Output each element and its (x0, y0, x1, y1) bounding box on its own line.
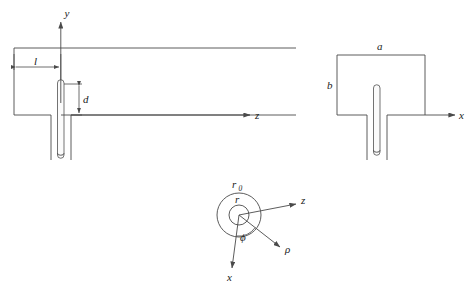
dim-a-label: a (377, 40, 383, 52)
end-probe-center-conductor (374, 85, 381, 156)
dim-d-label: d (83, 93, 89, 105)
technical-figure: y z l d (0, 0, 475, 292)
coax-z-axis-label: z (300, 194, 306, 206)
coax-rho-label: ρ (284, 243, 290, 255)
coax-outer-radius-subscript: 0 (239, 184, 243, 193)
dim-b-label: b (327, 79, 333, 91)
coax-outer-radius-label: r (232, 178, 237, 190)
end-view-outline-right (337, 55, 425, 115)
coax-x-axis-label: x (226, 271, 232, 283)
dim-l-label: l (34, 55, 37, 67)
coax-inner-radius-label: r (235, 193, 240, 205)
end-view-group: x a b (327, 40, 464, 160)
end-view-outline-left (337, 55, 367, 115)
figure-canvas: y z l d (0, 0, 475, 292)
coax-phi-label: ϕ (240, 231, 246, 243)
side-view-group: y z l d (14, 7, 296, 160)
y-axis-label: y (64, 7, 70, 19)
z-axis-label: z (254, 109, 260, 121)
coax-section-group: r 0 r z x ρ ϕ (217, 178, 306, 283)
x-axis-label: x (458, 109, 464, 121)
